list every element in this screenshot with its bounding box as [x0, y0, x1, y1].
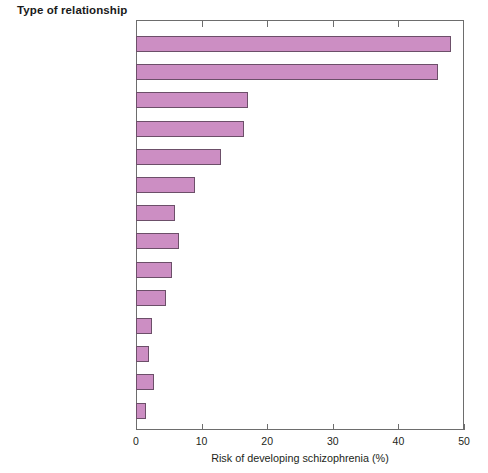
plot-area [136, 20, 464, 430]
bar [136, 374, 154, 390]
bar [136, 262, 172, 278]
bar [136, 290, 166, 306]
x-tick-top [398, 20, 399, 27]
bar [136, 92, 248, 108]
x-tick-label: 10 [196, 435, 208, 447]
x-tick [202, 424, 203, 430]
x-tick-top [202, 20, 203, 27]
x-tick [267, 424, 268, 430]
bar [136, 36, 451, 52]
bar [136, 64, 438, 80]
page-title: Type of relationship [17, 4, 127, 16]
bar [136, 318, 152, 334]
bar [136, 149, 221, 165]
bar [136, 121, 244, 137]
bar [136, 403, 146, 419]
x-tick-top [267, 20, 268, 27]
x-tick [333, 424, 334, 430]
x-tick-label: 30 [327, 435, 339, 447]
x-tick-label: 20 [261, 435, 273, 447]
x-tick [136, 424, 137, 430]
x-tick-top [333, 20, 334, 27]
x-tick-label: 50 [458, 435, 470, 447]
bar [136, 346, 149, 362]
x-tick-label: 0 [133, 435, 139, 447]
bar [136, 233, 179, 249]
x-axis-title: Risk of developing schizophrenia (%) [136, 452, 464, 464]
bar [136, 177, 195, 193]
x-tick-label: 40 [393, 435, 405, 447]
x-tick [464, 424, 465, 430]
x-tick [398, 424, 399, 430]
bar [136, 205, 175, 221]
